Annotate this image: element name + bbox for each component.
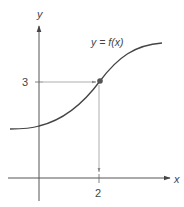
x-axis-label: x <box>173 173 180 185</box>
function-graph: y x y = f(x) 3 2 <box>0 0 184 207</box>
curve-label: y = f(x) <box>90 36 123 48</box>
y-axis-label: y <box>36 8 44 20</box>
x-tick-label-2: 2 <box>95 187 101 199</box>
highlighted-point <box>97 78 103 84</box>
function-curve <box>10 43 162 129</box>
chart-canvas: y x y = f(x) 3 2 <box>0 0 184 207</box>
y-tick-label-3: 3 <box>22 76 28 88</box>
